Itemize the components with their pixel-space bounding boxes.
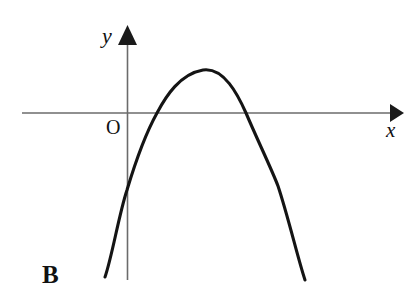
parabola-figure: y x O B bbox=[0, 0, 415, 301]
y-axis-label: y bbox=[102, 25, 112, 47]
panel-label: B bbox=[42, 262, 59, 287]
figure-canvas bbox=[0, 0, 415, 301]
x-axis-label: x bbox=[386, 120, 395, 141]
origin-label: O bbox=[106, 117, 120, 137]
parabola-curve bbox=[105, 70, 305, 280]
y-axis-arrowhead-icon bbox=[118, 25, 137, 45]
